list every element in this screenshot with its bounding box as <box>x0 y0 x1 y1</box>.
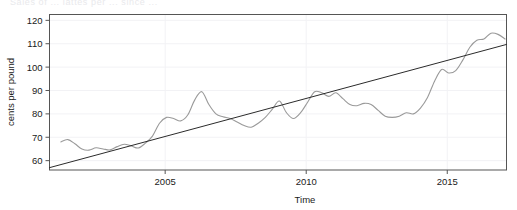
x-tick-label-2015: 2015 <box>437 176 458 187</box>
x-tick-label-2005: 2005 <box>155 176 176 187</box>
y-tick-label-90: 90 <box>32 85 43 96</box>
x-axis-tick-labels: 200520102015 <box>155 176 458 187</box>
chart-series-group <box>50 33 507 168</box>
x-tick-label-2010: 2010 <box>296 176 317 187</box>
y-axis-tick-labels: 60708090100110120 <box>27 15 43 166</box>
y-tick-label-70: 70 <box>32 132 43 143</box>
y-tick-label-100: 100 <box>27 62 43 73</box>
cut-off-header-text: Sales of ... lattes per ... since ... <box>10 0 158 7</box>
y-tick-label-80: 80 <box>32 108 43 119</box>
y-axis-ticks <box>46 20 50 160</box>
data-series-line <box>61 33 505 150</box>
vertical-gridlines <box>165 15 447 171</box>
y-tick-label-110: 110 <box>27 38 42 49</box>
y-tick-label-120: 120 <box>27 15 43 26</box>
x-axis-ticks <box>165 170 447 174</box>
trend-line <box>50 44 507 167</box>
time-series-chart: 60708090100110120 200520102015 cents per… <box>0 0 517 210</box>
horizontal-gridlines <box>50 20 507 160</box>
y-tick-label-60: 60 <box>32 155 43 166</box>
x-axis-title: Time <box>295 194 316 205</box>
chart-figure: Sales of ... lattes per ... since ... 60… <box>0 0 517 210</box>
y-axis-title: cents per pound <box>5 58 16 126</box>
